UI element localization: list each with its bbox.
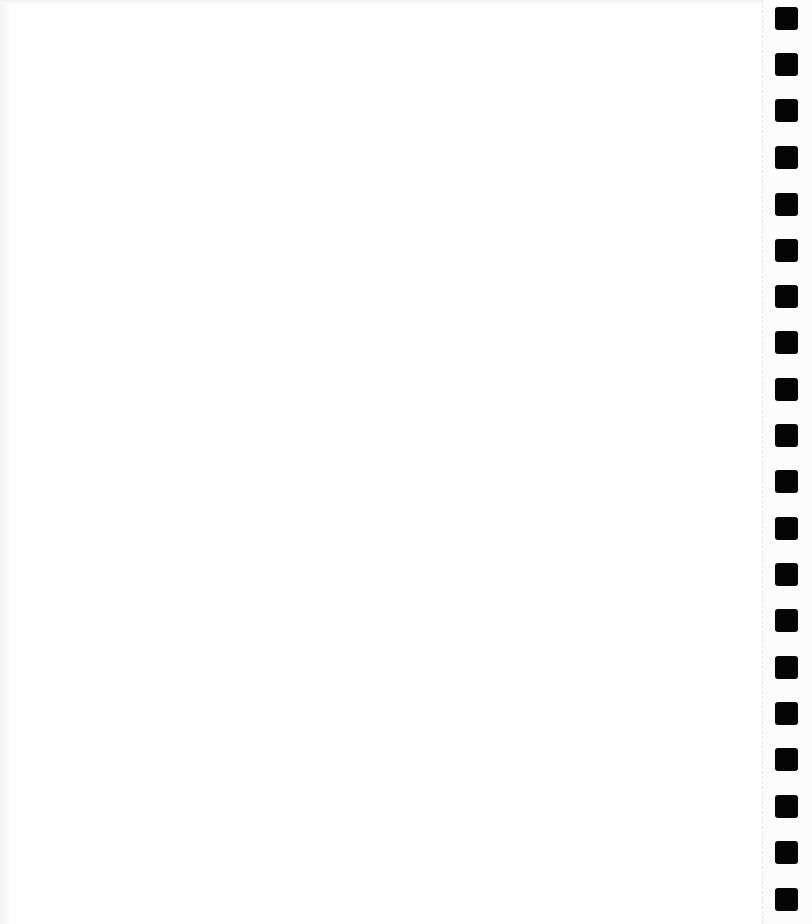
punch-hole [775, 99, 798, 122]
punch-hole [775, 609, 798, 632]
binding-strip [763, 0, 812, 924]
punch-hole [775, 563, 798, 586]
punch-hole [775, 702, 798, 725]
punch-hole [775, 888, 798, 911]
punch-hole [775, 656, 798, 679]
punch-hole [775, 285, 798, 308]
punch-hole [775, 424, 798, 447]
punch-hole [775, 841, 798, 864]
punch-hole [775, 378, 798, 401]
punch-hole [775, 517, 798, 540]
page-edge-shadow [0, 0, 10, 924]
punch-hole [775, 331, 798, 354]
punch-hole [775, 146, 798, 169]
punch-hole [775, 795, 798, 818]
page-content-area [30, 30, 730, 890]
punch-hole [775, 239, 798, 262]
punch-hole [775, 7, 798, 30]
blank-page [0, 0, 812, 924]
punch-hole [775, 470, 798, 493]
punch-hole [775, 193, 798, 216]
punch-hole [775, 748, 798, 771]
punch-hole [775, 53, 798, 76]
perforation-line [762, 0, 763, 924]
page-top-shadow [0, 0, 812, 4]
